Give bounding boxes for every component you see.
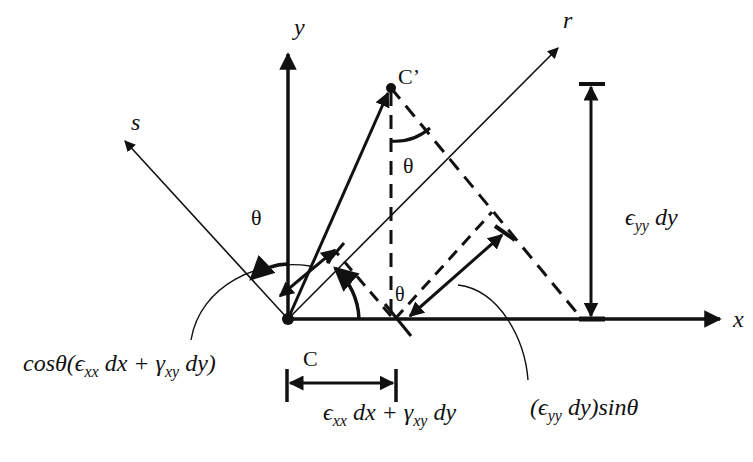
c-label: C [303,346,318,371]
parallel-dashed [395,212,492,319]
cos-term-label: cosθ(ϵxx dx + γxy dy) [23,350,216,381]
y-axis-label: y [292,14,305,40]
sin-term-arrow [410,235,502,316]
cos-term-leader [191,265,310,340]
theta-label-base: θ [395,283,405,305]
strain-diagram: x y r s C’ θ θ θ ϵyy dy [0,0,753,462]
axes [125,48,720,319]
theta-label-y-s: θ [251,205,262,230]
r-axis [288,48,558,319]
perp-dashed-inner [336,252,391,316]
horizontal-dimension [287,369,396,402]
theta-label-c-prime: θ [403,153,414,178]
s-axis [125,141,288,319]
horizontal-dimension-label: ϵxx dx + γxy dy [323,399,456,430]
vertical-dimension [579,84,605,319]
vertical-dimension-label: ϵyy dy [625,204,678,235]
x-axis-label: x [732,306,744,332]
displacement-vector [288,93,388,319]
c-prime-label: C’ [398,64,420,89]
sin-term-leader [458,285,528,380]
theta-arc-x-to-r [335,268,359,319]
r-axis-label: r [563,7,573,33]
diagonal-dashed-right [391,88,582,319]
sin-term-label: (ϵyy dy)sinθ [530,394,639,425]
s-axis-label: s [131,109,140,135]
